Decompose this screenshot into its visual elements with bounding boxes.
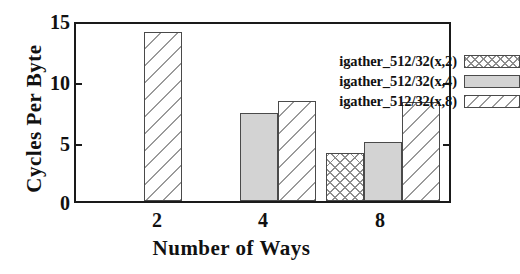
x-tick-label-8: 8 — [350, 209, 410, 232]
legend-item-igather-x8: igather_512/32(x,8) — [292, 91, 520, 111]
bar-ways2-igather-x8 — [144, 32, 182, 201]
x-tick-label-2: 2 — [127, 209, 187, 232]
bar-ways8-igather-x4 — [364, 142, 402, 201]
y-tick-label-15: 15 — [36, 12, 70, 32]
y-tick-mark-5-right — [443, 144, 449, 146]
bar-ways8-igather-x8 — [402, 102, 440, 201]
chart-legend: igather_512/32(x,2) igather_512/32(x,4) … — [292, 50, 520, 113]
bar-ways8-igather-x2 — [326, 153, 364, 201]
legend-label-igather-x8: igather_512/32(x,8) — [339, 93, 457, 110]
legend-swatch-cross-hatch-icon — [464, 55, 520, 68]
y-tick-label-10: 10 — [36, 73, 70, 93]
plot-area: igather_512/32(x,2) igather_512/32(x,4) … — [74, 22, 451, 203]
legend-swatch-diagonal-hatch-icon — [464, 95, 520, 108]
x-axis-title: Number of Ways — [0, 236, 463, 261]
y-tick-label-0: 0 — [36, 193, 70, 213]
legend-label-igather-x2: igather_512/32(x,2) — [339, 53, 457, 70]
legend-swatch-solid-gray-icon — [464, 75, 520, 88]
y-tick-label-5: 5 — [36, 134, 70, 154]
legend-item-igather-x4: igather_512/32(x,4) — [292, 71, 520, 91]
bar-ways4-igather-x4 — [240, 113, 278, 201]
bar-ways4-igather-x8 — [278, 101, 316, 201]
y-tick-mark-10 — [76, 83, 82, 85]
x-tick-label-4: 4 — [233, 209, 293, 232]
legend-item-igather-x2: igather_512/32(x,2) — [292, 51, 520, 71]
y-tick-mark-5 — [76, 144, 82, 146]
legend-label-igather-x4: igather_512/32(x,4) — [339, 73, 457, 90]
y-axis-tick-labels: 15 10 5 0 — [28, 0, 70, 274]
